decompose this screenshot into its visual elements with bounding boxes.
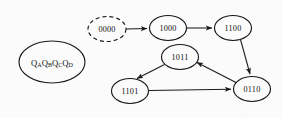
edge-1100-to-0110 (241, 40, 251, 75)
node-state-1100[interactable]: 1100 (215, 16, 252, 41)
edge-1101-to-0110 (149, 89, 231, 90)
state-0110-label: 0110 (244, 85, 261, 94)
node-state-1011[interactable]: 1011 (162, 45, 199, 70)
state-1000-label: 1000 (159, 24, 176, 33)
diagram-canvas: QAQBQCQD 0000 1000 1100 1011 1101 (0, 0, 283, 118)
state-1100-label: 1100 (225, 24, 242, 33)
node-register[interactable]: QAQBQCQD (19, 41, 85, 83)
state-0000-label: 0000 (98, 25, 115, 34)
q-d-subscript: D (69, 62, 74, 68)
node-state-1101[interactable]: 1101 (112, 79, 149, 104)
node-state-0000[interactable]: 0000 (88, 17, 126, 42)
state-diagram-svg: QAQBQCQD 0000 1000 1100 1011 1101 (0, 0, 283, 118)
register-label: QAQBQCQD (31, 58, 73, 68)
edge-1011-to-1101 (137, 65, 165, 79)
node-state-1000[interactable]: 1000 (150, 16, 187, 41)
edge-0000-to-1000 (126, 29, 147, 30)
state-1101-label: 1101 (122, 87, 139, 96)
edge-0110-to-1011 (197, 63, 236, 83)
state-1011-label: 1011 (172, 53, 189, 62)
node-state-0110[interactable]: 0110 (234, 77, 271, 102)
